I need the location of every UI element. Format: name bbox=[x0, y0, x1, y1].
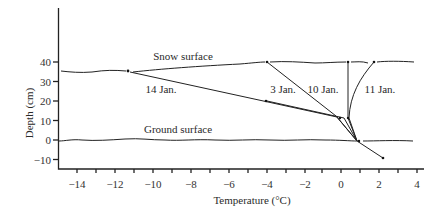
svg-text:−14: −14 bbox=[68, 178, 86, 190]
snow-surface-line bbox=[61, 61, 414, 72]
svg-text:−12: −12 bbox=[106, 178, 123, 190]
x-tick-labels: −14 −12 −10 −8 −6 −4 −2 0 2 4 bbox=[68, 178, 420, 190]
svg-text:−2: −2 bbox=[299, 178, 311, 190]
svg-text:10: 10 bbox=[40, 115, 52, 127]
snow-surface-label: Snow surface bbox=[153, 50, 213, 62]
data-points bbox=[127, 61, 385, 160]
svg-text:0: 0 bbox=[338, 178, 344, 190]
svg-text:−6: −6 bbox=[223, 178, 235, 190]
label-11-jan: 11 Jan. bbox=[365, 83, 396, 95]
label-10-jan: 10 Jan. bbox=[307, 83, 338, 95]
y-tick-labels: 40 30 20 10 0 −10 bbox=[34, 56, 52, 166]
svg-text:4: 4 bbox=[414, 178, 420, 190]
series-3-jan bbox=[267, 62, 383, 158]
series-11-jan bbox=[349, 62, 374, 141]
svg-text:−10: −10 bbox=[144, 178, 162, 190]
svg-text:30: 30 bbox=[40, 76, 52, 88]
label-3-jan: 3 Jan. bbox=[270, 83, 296, 95]
svg-text:40: 40 bbox=[40, 56, 52, 68]
label-14-jan: 14 Jan. bbox=[145, 83, 176, 95]
svg-text:20: 20 bbox=[40, 95, 52, 107]
y-axis-title: Depth (cm) bbox=[23, 87, 36, 138]
svg-text:0: 0 bbox=[46, 134, 52, 146]
x-axis-title: Temperature (°C) bbox=[213, 194, 291, 207]
svg-text:−10: −10 bbox=[34, 154, 52, 166]
svg-text:2: 2 bbox=[376, 178, 382, 190]
svg-text:−8: −8 bbox=[185, 178, 197, 190]
y-ticks bbox=[53, 62, 59, 160]
ground-surface-label: Ground surface bbox=[144, 123, 212, 135]
svg-text:−4: −4 bbox=[261, 178, 273, 190]
depth-temperature-chart: 40 30 20 10 0 −10 −14 −12 −10 −8 −6 −4 −… bbox=[0, 0, 447, 214]
